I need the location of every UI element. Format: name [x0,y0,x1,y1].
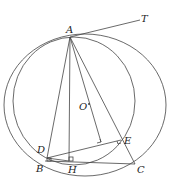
right-angle-H-icon [69,157,73,161]
segment-AD [47,37,70,158]
label-C: C [137,164,145,175]
label-O: O [79,101,87,112]
label-E: E [123,135,132,146]
segment-A-foot [70,37,101,142]
tangent-line-AT [70,20,140,37]
diagram-canvas: A T O D E B H C [0,0,173,181]
label-H: H [67,164,77,175]
label-D: D [36,144,45,155]
segment-BC [45,161,135,164]
label-A: A [65,24,73,35]
inner-circle [13,37,135,165]
right-angle-foot-icon [97,139,101,143]
label-T: T [141,13,149,24]
center-O-dot [88,103,90,105]
segment-AH [69,37,70,161]
label-B: B [35,163,43,174]
segment-DE [47,140,121,158]
geometry-diagram: A T O D E B H C [0,0,173,181]
